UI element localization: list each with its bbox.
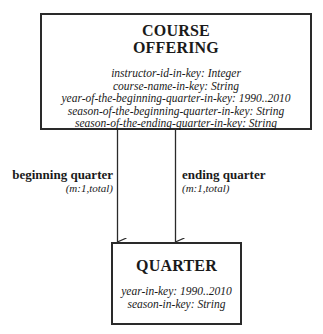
attribute: instructor-id-in-key: Integer bbox=[42, 67, 310, 80]
title-line: OFFERING bbox=[42, 39, 310, 56]
attribute: season-of-the-ending-quarter-in-key: Str… bbox=[42, 117, 310, 130]
entity-course-offering: COURSE OFFERING instructor-id-in-key: In… bbox=[40, 13, 312, 130]
attribute: year-in-key: 1990..2010 bbox=[113, 285, 240, 298]
attribute: season-of-the-beginning-quarter-in-key: … bbox=[42, 105, 310, 118]
title-line: COURSE bbox=[42, 22, 310, 39]
relationship-cardinality: (m:1,total) bbox=[12, 182, 113, 194]
relationship-name: beginning quarter bbox=[12, 168, 113, 182]
entity-title: QUARTER bbox=[113, 257, 240, 274]
relationship-ending-quarter: ending quarter (m:1,total) bbox=[182, 168, 265, 194]
relationship-beginning-quarter: beginning quarter (m:1,total) bbox=[12, 168, 113, 194]
entity-title: COURSE OFFERING bbox=[42, 22, 310, 56]
relationship-name: ending quarter bbox=[182, 168, 265, 182]
attribute-list: instructor-id-in-key: Integer course-nam… bbox=[42, 67, 310, 130]
relationship-cardinality: (m:1,total) bbox=[182, 182, 265, 194]
attribute: season-in-key: String bbox=[113, 298, 240, 311]
attribute-list: year-in-key: 1990..2010 season-in-key: S… bbox=[113, 285, 240, 310]
attribute: year-of-the-beginning-quarter-in-key: 19… bbox=[42, 92, 310, 105]
entity-quarter: QUARTER year-in-key: 1990..2010 season-i… bbox=[111, 242, 242, 325]
title-line: QUARTER bbox=[113, 257, 240, 274]
attribute: course-name-in-key: String bbox=[42, 80, 310, 93]
